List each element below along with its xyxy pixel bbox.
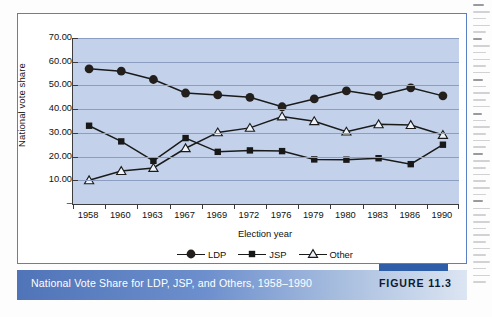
y-tick-mark bbox=[72, 157, 78, 158]
x-tick-mark bbox=[298, 204, 299, 209]
x-tick-label: 1983 bbox=[367, 210, 388, 220]
y-tick-label: 10.00 bbox=[26, 175, 72, 184]
x-tick-mark bbox=[363, 204, 364, 209]
x-tick-mark bbox=[234, 204, 235, 209]
figure-caption-bar: National Vote Share for LDP, JSP, and Ot… bbox=[17, 270, 467, 300]
y-tick-label: 40.00 bbox=[26, 104, 72, 113]
y-tick-label: 60.00 bbox=[26, 57, 72, 66]
figure-number-tab bbox=[379, 264, 448, 271]
gridline bbox=[73, 157, 459, 158]
data-point-square bbox=[86, 123, 92, 129]
book-page: National vote share 70.0060.0050.0040.00… bbox=[0, 0, 492, 317]
data-point-square bbox=[215, 149, 221, 155]
data-point-circle bbox=[342, 86, 351, 95]
x-tick-label: 1972 bbox=[239, 210, 260, 220]
y-tick-label: 50.00 bbox=[26, 80, 72, 89]
x-tick-label: 1979 bbox=[303, 210, 324, 220]
x-tick-mark bbox=[330, 204, 331, 209]
data-point-triangle bbox=[149, 164, 158, 172]
y-tick-mark bbox=[72, 62, 78, 63]
data-point-circle bbox=[439, 91, 448, 100]
y-tick-mark bbox=[72, 38, 78, 39]
legend-item-jsp[interactable]: JSP bbox=[238, 249, 286, 260]
x-tick-mark bbox=[105, 204, 106, 209]
chart-legend: LDPJSPOther bbox=[72, 246, 458, 262]
x-axis-tick-labels: 1958196019631967196919721976197919801983… bbox=[72, 210, 458, 224]
data-point-square bbox=[247, 147, 253, 153]
data-point-triangle bbox=[181, 144, 190, 152]
data-point-square bbox=[440, 142, 446, 148]
y-tick-label: – bbox=[26, 199, 72, 208]
data-point-square bbox=[249, 251, 255, 257]
x-tick-label: 1986 bbox=[399, 210, 420, 220]
data-point-circle bbox=[246, 93, 255, 102]
x-tick-label: 1960 bbox=[110, 210, 131, 220]
plot-area bbox=[72, 38, 459, 205]
data-point-circle bbox=[310, 95, 319, 104]
gridline bbox=[73, 133, 459, 134]
series-line-ldp bbox=[89, 69, 443, 107]
legend-marker-filled-square-icon bbox=[238, 249, 266, 259]
data-point-triangle bbox=[277, 112, 286, 120]
data-point-square bbox=[118, 138, 124, 144]
data-point-square bbox=[279, 148, 285, 154]
gridline bbox=[73, 62, 459, 63]
data-point-circle bbox=[374, 91, 383, 100]
y-tick-mark bbox=[72, 109, 78, 110]
y-tick-label: 70.00 bbox=[26, 33, 72, 42]
data-point-circle bbox=[117, 67, 126, 76]
x-tick-mark bbox=[137, 204, 138, 209]
y-tick-mark bbox=[72, 133, 78, 134]
legend-item-other[interactable]: Other bbox=[299, 249, 353, 260]
series-line-jsp bbox=[89, 126, 443, 164]
data-point-circle bbox=[213, 91, 222, 100]
x-tick-mark bbox=[266, 204, 267, 209]
data-point-circle bbox=[149, 75, 158, 84]
legend-marker-filled-circle-icon bbox=[177, 249, 205, 259]
data-point-square bbox=[182, 135, 188, 141]
data-point-triangle bbox=[308, 250, 317, 258]
y-tick-mark bbox=[72, 180, 78, 181]
legend-label: JSP bbox=[269, 249, 286, 260]
data-point-circle bbox=[181, 89, 190, 98]
x-tick-mark bbox=[395, 204, 396, 209]
x-tick-mark bbox=[458, 204, 459, 209]
y-tick-mark bbox=[72, 204, 78, 205]
x-tick-label: 1967 bbox=[174, 210, 195, 220]
x-tick-label: 1980 bbox=[335, 210, 356, 220]
legend-label: Other bbox=[330, 249, 353, 260]
legend-marker-open-triangle-icon bbox=[299, 249, 327, 259]
gridline bbox=[73, 85, 459, 86]
figure-caption-text: National Vote Share for LDP, JSP, and Ot… bbox=[31, 277, 312, 289]
figure-card: National vote share 70.0060.0050.0040.00… bbox=[17, 13, 467, 264]
gridline bbox=[73, 38, 459, 39]
y-tick-label: 20.00 bbox=[26, 152, 72, 161]
legend-item-ldp[interactable]: LDP bbox=[177, 249, 226, 260]
y-axis-tick-labels: 70.0060.0050.0040.0030.0020.0010.00– bbox=[24, 14, 72, 262]
x-tick-label: 1958 bbox=[78, 210, 99, 220]
y-tick-mark bbox=[72, 85, 78, 86]
data-point-square bbox=[408, 161, 414, 167]
x-tick-label: 1969 bbox=[206, 210, 227, 220]
x-tick-mark bbox=[427, 204, 428, 209]
x-tick-label: 1976 bbox=[271, 210, 292, 220]
series-layer bbox=[73, 38, 459, 204]
x-axis-title: Election year bbox=[72, 228, 458, 239]
x-tick-mark bbox=[202, 204, 203, 209]
x-tick-label: 1990 bbox=[432, 210, 453, 220]
page-body-text-column bbox=[473, 4, 492, 313]
x-tick-mark bbox=[170, 204, 171, 209]
gridline bbox=[73, 109, 459, 110]
gridline bbox=[73, 180, 459, 181]
legend-label: LDP bbox=[208, 249, 226, 260]
series-line-other bbox=[89, 116, 443, 180]
data-point-circle bbox=[187, 250, 196, 259]
line-chart: National vote share 70.0060.0050.0040.00… bbox=[18, 14, 465, 262]
figure-number-label: FIGURE 11.3 bbox=[379, 277, 455, 289]
data-point-circle bbox=[85, 64, 94, 73]
x-tick-label: 1963 bbox=[142, 210, 163, 220]
y-tick-label: 30.00 bbox=[26, 128, 72, 137]
